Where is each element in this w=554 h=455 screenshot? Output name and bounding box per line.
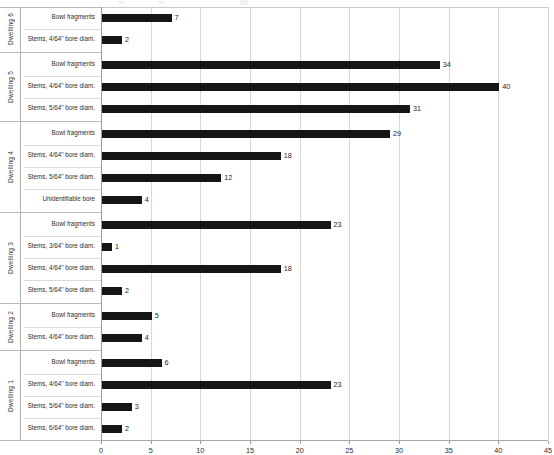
x-tick-label: 20 xyxy=(290,447,310,454)
x-axis-tick xyxy=(151,441,152,444)
scan-artifact xyxy=(240,0,248,5)
category-label: Bowl fragments xyxy=(20,61,98,67)
group-label: Dwelling 4 xyxy=(0,123,20,211)
group-separator xyxy=(0,52,101,53)
category-row-divider xyxy=(24,418,101,419)
bar xyxy=(102,425,122,433)
category-label: Stems, 6/64" bore diam. xyxy=(20,425,98,431)
x-gridline xyxy=(349,7,350,440)
category-label: Stems, 3/64" bore diam. xyxy=(20,243,98,249)
x-tick-label: 5 xyxy=(141,447,161,454)
x-gridline xyxy=(399,7,400,440)
x-axis-tick xyxy=(399,441,400,444)
x-axis-tick xyxy=(548,441,549,444)
group-band-dwelling-4: Dwelling 4 xyxy=(0,123,20,211)
bar-value-label: 7 xyxy=(175,14,179,21)
bar-value-label: 29 xyxy=(393,130,401,137)
scan-artifact xyxy=(158,1,165,4)
bar-value-label: 5 xyxy=(155,312,159,319)
bar-value-label: 2 xyxy=(125,36,129,43)
bar-value-label: 18 xyxy=(284,265,292,272)
plot-top-border xyxy=(101,7,548,8)
group-separator xyxy=(0,350,101,351)
category-label: Stems, 4/64" bore diam. xyxy=(20,334,98,340)
bar-value-label: 40 xyxy=(502,83,510,90)
category-label: Unidentifiable bore xyxy=(20,196,98,202)
bar-value-label: 1 xyxy=(115,243,119,250)
bar-value-label: 2 xyxy=(125,287,129,294)
bar xyxy=(102,130,390,138)
category-label: Stems, 4/64" bore diam. xyxy=(20,83,98,89)
category-label: Bowl fragments xyxy=(20,14,98,20)
group-band-dwelling-5: Dwelling 5 xyxy=(0,54,20,120)
bar xyxy=(102,36,122,44)
category-row-divider xyxy=(24,280,101,281)
group-label: Dwelling 6 xyxy=(0,7,20,51)
category-label: Stems, 4/64" bore diam. xyxy=(20,152,98,158)
group-band-dwelling-2: Dwelling 2 xyxy=(0,305,20,349)
category-row-divider xyxy=(24,76,101,77)
bar-value-label: 23 xyxy=(334,221,342,228)
bar-value-label: 3 xyxy=(135,403,139,410)
bar xyxy=(102,265,281,273)
group-separator xyxy=(0,440,101,441)
category-row-divider xyxy=(24,167,101,168)
bar-value-label: 2 xyxy=(125,425,129,432)
category-row-divider xyxy=(24,374,101,375)
category-row-divider xyxy=(24,236,101,237)
bar-value-label: 12 xyxy=(224,174,232,181)
group-band-dwelling-1: Dwelling 1 xyxy=(0,352,20,440)
bar xyxy=(102,312,152,320)
category-row-divider xyxy=(24,396,101,397)
x-axis-tick xyxy=(300,441,301,444)
scan-artifact xyxy=(118,1,124,4)
x-axis-tick xyxy=(200,441,201,444)
group-band-dwelling-6: Dwelling 6 xyxy=(0,7,20,51)
x-axis-tick xyxy=(349,441,350,444)
bar xyxy=(102,174,221,182)
group-band-dwelling-3: Dwelling 3 xyxy=(0,214,20,302)
x-tick-label: 25 xyxy=(339,447,359,454)
category-label: Stems, 5/64" bore diam. xyxy=(20,287,98,293)
category-label: Stems, 5/64" bore diam. xyxy=(20,105,98,111)
bar xyxy=(102,381,331,389)
bar-value-label: 31 xyxy=(413,105,421,112)
group-label: Dwelling 2 xyxy=(0,305,20,349)
x-tick-label: 30 xyxy=(389,447,409,454)
x-gridline xyxy=(449,7,450,440)
bar-value-label: 4 xyxy=(145,196,149,203)
bar-value-label: 18 xyxy=(284,152,292,159)
bar xyxy=(102,403,132,411)
bar xyxy=(102,83,499,91)
category-row-divider xyxy=(24,258,101,259)
group-label: Dwelling 1 xyxy=(0,352,20,440)
bar xyxy=(102,243,112,251)
bar xyxy=(102,359,162,367)
bar xyxy=(102,152,281,160)
x-tick-label: 10 xyxy=(190,447,210,454)
x-tick-label: 40 xyxy=(488,447,508,454)
category-row-divider xyxy=(24,327,101,328)
category-label: Stems, 5/64" bore diam. xyxy=(20,403,98,409)
group-label: Dwelling 5 xyxy=(0,54,20,120)
category-label: Bowl fragments xyxy=(20,359,98,365)
bar-value-label: 6 xyxy=(165,359,169,366)
bar xyxy=(102,61,440,69)
group-separator-top xyxy=(0,7,101,8)
bar xyxy=(102,287,122,295)
category-label: Bowl fragments xyxy=(20,312,98,318)
x-axis-tick xyxy=(101,441,102,444)
x-tick-label: 0 xyxy=(91,447,111,454)
x-tick-label: 45 xyxy=(538,447,554,454)
x-gridline xyxy=(498,7,499,440)
bar-value-label: 23 xyxy=(334,381,342,388)
bar xyxy=(102,196,142,204)
x-axis-tick xyxy=(250,441,251,444)
group-separator xyxy=(0,212,101,213)
bar xyxy=(102,334,142,342)
category-label: Stems, 4/64" bore diam. xyxy=(20,265,98,271)
x-axis-tick xyxy=(498,441,499,444)
bar xyxy=(102,14,172,22)
group-separator xyxy=(0,303,101,304)
